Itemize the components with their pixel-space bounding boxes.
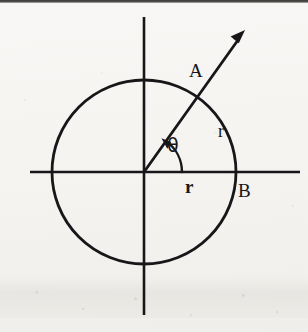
figure-canvas: A r r B θ bbox=[0, 0, 308, 332]
angle-label-theta: θ bbox=[167, 136, 179, 155]
terminal-ray-arrowhead-icon bbox=[231, 30, 245, 43]
radius-label-horizontal: r bbox=[185, 177, 193, 196]
circle-angle-diagram bbox=[0, 0, 308, 332]
point-label-b: B bbox=[238, 181, 251, 200]
radius-label-radial: r bbox=[218, 122, 224, 140]
point-label-a: A bbox=[189, 61, 203, 80]
